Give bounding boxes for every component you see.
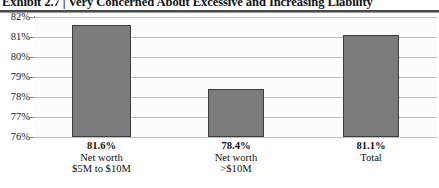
category-name-line1: Net worth [176, 152, 296, 164]
category-label: 81.1%Total [311, 140, 431, 163]
category-label: 78.4%Net worth>$10M [176, 140, 296, 175]
gridline [34, 17, 437, 18]
title-rule-thin [0, 12, 439, 13]
bar [343, 35, 399, 137]
y-axis-tick-label: 76% [0, 132, 30, 142]
y-axis-tick-label: 80% [0, 52, 30, 62]
bar [72, 25, 131, 137]
y-axis-tick-label: 82% [0, 12, 30, 22]
category-name-line1: Total [311, 152, 431, 164]
category-label: 81.6%Net worth$5M to $10M [42, 140, 162, 175]
category-name-line1: Net worth [42, 152, 162, 164]
bar-value-label: 81.1% [311, 140, 431, 152]
plot-area [34, 17, 437, 137]
gridline [34, 137, 437, 138]
y-axis-tick-label: 77% [0, 112, 30, 122]
page-title: Exhibit 2.7 | Very Concerned About Exces… [2, 0, 373, 10]
bar-value-label: 81.6% [42, 140, 162, 152]
bar [208, 89, 264, 137]
category-name-line2: $5M to $10M [42, 163, 162, 175]
category-name-line2: >$10M [176, 163, 296, 175]
y-axis-tick-label: 78% [0, 92, 30, 102]
exhibit-chart: Exhibit 2.7 | Very Concerned About Exces… [0, 0, 439, 188]
y-axis-tick-label: 81% [0, 32, 30, 42]
y-axis-tick-label: 79% [0, 72, 30, 82]
bar-value-label: 78.4% [176, 140, 296, 152]
